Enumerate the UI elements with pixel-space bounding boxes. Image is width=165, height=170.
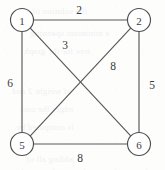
node-label-6: 6 [136, 139, 142, 151]
node-label-5: 5 [19, 139, 25, 151]
edge-weight-1-6: 3 [62, 39, 68, 51]
edge-weight-2-5: 8 [110, 60, 116, 72]
graph-canvas: 2 6 5 8 3 8 1 2 5 6 [0, 0, 165, 170]
node-label-1: 1 [19, 15, 25, 27]
graph-figure: the solution of thea minimum spanningtre… [0, 0, 165, 170]
edge-weight-5-6: 8 [77, 152, 83, 164]
edge-weight-1-2: 2 [76, 4, 82, 16]
edge-lines [22, 20, 139, 144]
node-label-2: 2 [136, 15, 142, 27]
edge-weight-1-5: 6 [7, 77, 13, 89]
edge-weight-2-6: 5 [149, 79, 155, 91]
